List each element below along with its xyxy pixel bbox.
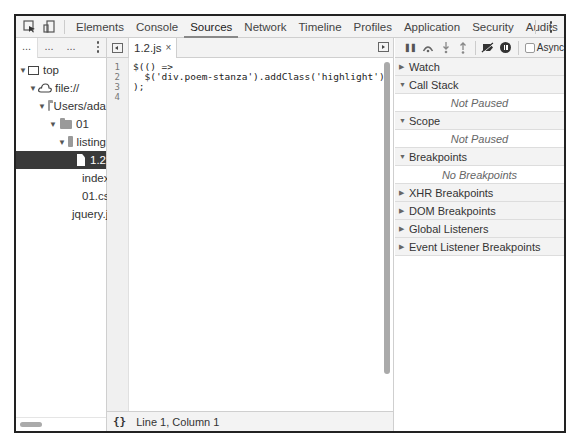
expanded-arrow-icon[interactable]: ▼ [18,66,28,75]
pane-global-listeners[interactable]: ▶ Global Listeners [395,220,564,238]
tree-item-folder[interactable]: ▼ Users/ada [16,97,106,115]
code-line: $('div.poem-stanza').addClass('highlight… [133,72,385,82]
tab-elements[interactable]: Elements [70,16,130,38]
expanded-arrow-icon[interactable]: ▼ [58,138,66,147]
toolbar-divider [535,20,536,34]
step-out-icon[interactable] [454,39,472,57]
tab-application[interactable]: Application [398,16,466,38]
expanded-arrow-icon: ▼ [399,117,409,124]
collapsed-arrow-icon: ▶ [399,63,409,71]
tab-timeline[interactable]: Timeline [293,16,348,38]
divider [16,417,106,418]
collapsed-arrow-icon: ▶ [399,207,409,215]
pause-icon[interactable]: ❚❚ [401,39,419,57]
pane-dom-breakpoints[interactable]: ▶ DOM Breakpoints [395,202,564,220]
toolbar-divider [64,20,65,34]
tree-item-label: Users/ada [54,100,106,112]
pane-scope[interactable]: ▼ Scope [395,112,564,130]
pane-watch[interactable]: ▶ Watch [395,58,564,76]
debugger-sidebar: ❚❚ Async ▶ Watch ▼ Call Stack [395,38,564,431]
pane-call-stack[interactable]: ▼ Call Stack [395,76,564,94]
pane-title: Call Stack [409,79,459,91]
breakpoints-status: No Breakpoints [395,166,564,184]
tab-security[interactable]: Security [466,16,520,38]
expanded-arrow-icon: ▼ [399,153,409,160]
pane-event-listener-breakpoints[interactable]: ▶ Event Listener Breakpoints [395,238,564,256]
navigator-tab-content-scripts[interactable]: ... [38,38,60,58]
pane-title: Scope [409,115,440,127]
tab-profiles[interactable]: Profiles [348,16,398,38]
line-number[interactable]: 4 [107,92,124,102]
pane-title: Watch [409,61,440,73]
step-into-icon[interactable] [437,39,455,57]
pane-title: DOM Breakpoints [409,205,496,217]
tab-audits[interactable]: Audits [520,16,564,38]
tree-item-label: file:// [55,82,79,94]
navigator-menu-icon[interactable] [97,41,100,53]
code-line [133,92,385,102]
tree-item-file[interactable]: jquery.js [16,205,106,223]
tree-item-label: 01 [76,118,89,130]
tree-item-file-origin[interactable]: ▼ file:// [16,79,106,97]
pause-on-exceptions-icon[interactable] [497,39,515,57]
expanded-arrow-icon: ▼ [399,81,409,88]
navigator-tabs: ... ... ... [16,38,106,58]
folder-icon [60,120,72,129]
tree-item-file[interactable]: index [16,169,106,187]
file-icon [77,154,85,166]
toolbar-divider [475,41,476,55]
expanded-arrow-icon[interactable]: ▼ [28,84,38,93]
tab-console[interactable]: Console [130,16,184,38]
step-over-icon[interactable] [419,39,437,57]
deactivate-breakpoints-icon[interactable] [479,39,497,57]
editor-status-bar: {} Line 1, Column 1 [107,411,393,431]
file-navigator: ... ... ... ▼ top ▼ file:// ▼ Users/ada [16,38,107,431]
line-number[interactable]: 3 [107,82,124,92]
tree-item-label: 1.2 [90,154,106,166]
async-checkbox[interactable] [525,43,535,53]
tab-network[interactable]: Network [238,16,292,38]
debugger-toolbar: ❚❚ Async [395,38,564,58]
horizontal-scrollbar[interactable] [20,422,42,427]
kebab-menu-icon[interactable] [546,18,556,36]
collapsed-arrow-icon: ▶ [399,225,409,233]
toggle-navigator-icon[interactable] [112,43,123,53]
cloud-icon [38,83,52,93]
pane-title: XHR Breakpoints [409,187,493,199]
navigator-tab-sources[interactable]: ... [16,38,38,58]
navigator-tab-snippets[interactable]: ... [60,38,82,58]
inspect-element-icon[interactable] [19,17,39,37]
file-tree: ▼ top ▼ file:// ▼ Users/ada ▼ 01 ▼ [16,58,106,223]
collapsed-arrow-icon: ▶ [399,243,409,251]
expanded-arrow-icon[interactable]: ▼ [38,102,46,111]
tree-item-file-selected[interactable]: 1.2 [16,151,106,169]
close-icon[interactable]: × [166,42,172,53]
device-mode-icon[interactable] [39,17,59,37]
line-number[interactable]: 1 [107,62,124,72]
code-line: ); [133,82,385,92]
pane-breakpoints[interactable]: ▼ Breakpoints [395,148,564,166]
scope-status: Not Paused [395,130,564,148]
tree-item-label: listing [77,136,106,148]
tree-item-folder[interactable]: ▼ 01 [16,115,106,133]
expanded-arrow-icon[interactable]: ▼ [48,120,58,129]
editor-tabs: 1.2.js × [107,38,393,58]
tree-item-label: 01.cs [82,190,110,202]
pretty-print-icon[interactable]: {} [113,415,126,428]
editor-tab-1-2-js[interactable]: 1.2.js × [128,38,177,58]
source-editor: 1.2.js × 1 2 3 4 $(() => $('div.poem-sta… [107,38,394,431]
line-number-gutter: 1 2 3 4 [107,58,129,411]
tree-item-label: top [43,64,59,76]
call-stack-status: Not Paused [395,94,564,112]
pane-xhr-breakpoints[interactable]: ▶ XHR Breakpoints [395,184,564,202]
tree-item-folder[interactable]: ▼ listing [16,133,106,151]
tab-sources[interactable]: Sources [184,16,238,38]
tree-item-top[interactable]: ▼ top [16,61,106,79]
tree-item-file[interactable]: 01.cs [16,187,106,205]
code-area[interactable]: $(() => $('div.poem-stanza').addClass('h… [133,62,385,102]
collapsed-arrow-icon: ▶ [399,189,409,197]
toggle-debugger-icon[interactable] [378,42,389,52]
vertical-scrollbar[interactable] [384,62,390,374]
line-number[interactable]: 2 [107,72,124,82]
main-toolbar: Elements Console Sources Network Timelin… [16,16,564,38]
